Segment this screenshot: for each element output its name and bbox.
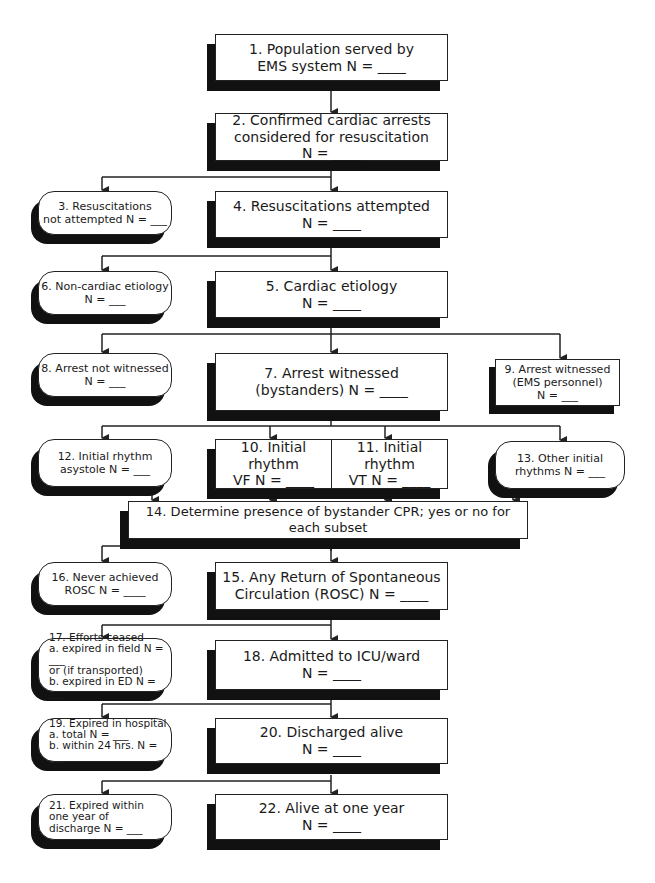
node-8-not-witnessed: 8. Arrest not witnessed N = ___	[38, 353, 172, 397]
node-3-not-attempted: 3. Resuscitations not attempted N = ___	[38, 191, 172, 235]
node-7-witnessed-bystanders: 7. Arrest witnessed (bystanders) N = ___…	[215, 353, 448, 411]
node-1-population: 1. Population served by EMS system N = _…	[215, 34, 448, 81]
node-22-alive-one-year: 22. Alive at one year N = ____	[215, 794, 448, 840]
node-19-expired-hospital: 19. Expired in hospital a. total N = ___…	[38, 718, 172, 762]
node-9-witnessed-ems: 9. Arrest witnessed (EMS personnel) N = …	[495, 359, 620, 406]
node-6-non-cardiac: 6. Non-cardiac etiology N = ___	[38, 271, 172, 315]
node-18-admitted: 18. Admitted to ICU/ward N = ____	[215, 640, 448, 690]
node-2-confirmed-arrests: 2. Confirmed cardiac arrests considered …	[215, 113, 448, 161]
node-10-11-vf-vt: 10. Initial rhythm VF N = ____ 11. Initi…	[215, 439, 448, 489]
node-17-efforts-ceased: 17. Efforts ceased a. expired in field N…	[38, 638, 172, 692]
node-4-attempted: 4. Resuscitations attempted N = ____	[215, 191, 448, 238]
node-11-vt: 11. Initial rhythm VT N = ____	[331, 440, 447, 488]
node-15-rosc: 15. Any Return of Spontaneous Circulatio…	[215, 562, 448, 610]
node-13-other-rhythms: 13. Other initial rhythms N = ___	[495, 441, 625, 489]
node-10-vf: 10. Initial rhythm VF N = ____	[216, 440, 331, 488]
node-20-discharged: 20. Discharged alive N = ____	[215, 718, 448, 764]
node-16-never-rosc: 16. Never achieved ROSC N = ____	[38, 562, 172, 606]
node-12-asystole: 12. Initial rhythm asystole N = ___	[38, 439, 172, 487]
node-5-cardiac: 5. Cardiac etiology N = ____	[215, 271, 448, 318]
node-21-expired-one-year: 21. Expired within one year of discharge…	[38, 794, 172, 840]
node-14-bystander-cpr: 14. Determine presence of bystander CPR;…	[128, 501, 528, 539]
